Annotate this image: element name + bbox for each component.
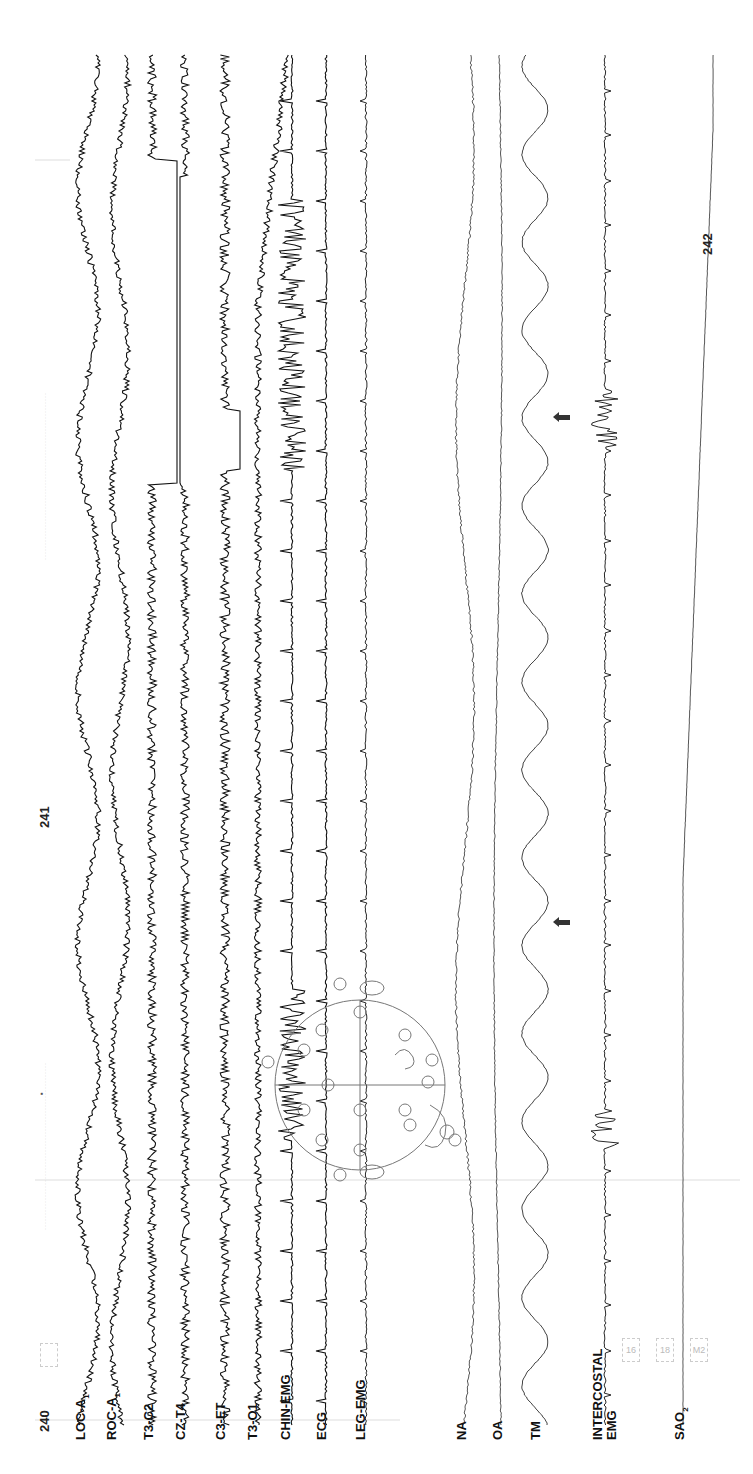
- label-intercostal-emg: EMG: [604, 1410, 619, 1440]
- label-t3-c2: T3-C2: [141, 1404, 156, 1440]
- label-ecg: ECG: [314, 1412, 329, 1440]
- label-chin-emg: CHIN-EMG: [278, 1374, 293, 1440]
- psg-figure: 240 241 242 ▪ ··························…: [0, 0, 753, 1474]
- label-sao2: SAO2: [672, 1407, 690, 1440]
- channel-traces: [75, 55, 713, 1425]
- label-t3-o1: T3-O1: [245, 1403, 260, 1440]
- faint-print-text-2: ········································…: [42, 392, 48, 560]
- stamp-m1: [40, 1343, 58, 1367]
- page-marker-242: 242: [700, 233, 715, 255]
- arrow-annotation-1: [558, 415, 570, 420]
- label-na: NA: [454, 1421, 469, 1440]
- label-oa: OA: [490, 1421, 505, 1441]
- faint-print-text: ········································…: [42, 1062, 48, 1230]
- page-marker-240: 240: [37, 1410, 52, 1432]
- label-loc-a1: LOC-A1: [73, 1394, 91, 1440]
- label-intercostal: INTERCOSTAL: [590, 1349, 605, 1440]
- label-leg-emg: LEG-EMG: [353, 1379, 368, 1440]
- label-c3-et: C3-ET: [213, 1402, 228, 1440]
- page-marker-241: 241: [37, 806, 52, 828]
- label-roc-a1: ROC-A1: [104, 1393, 122, 1440]
- stamp-m2: M2: [690, 1338, 708, 1362]
- stamp-16: 16: [622, 1338, 640, 1362]
- label-tm: TM: [528, 1421, 543, 1440]
- stamp-18: 18: [656, 1338, 674, 1362]
- arrow-annotation-2: [558, 920, 570, 925]
- trace-area: [0, 0, 753, 1474]
- label-cz-t4: CZ-T4: [173, 1403, 188, 1440]
